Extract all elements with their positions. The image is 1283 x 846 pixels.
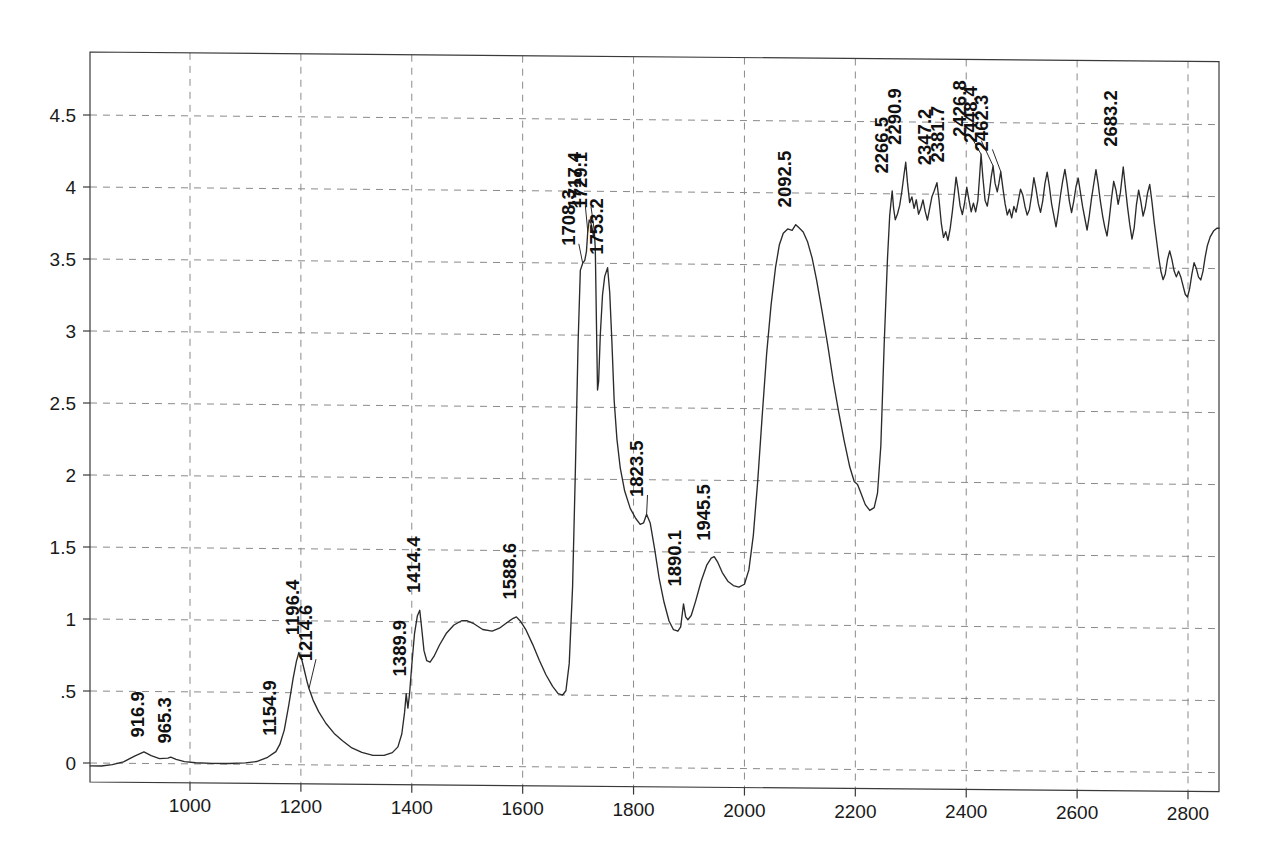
y-gridline xyxy=(90,403,1219,413)
y-gridline xyxy=(90,115,1219,125)
y-axis-tick-label: 3.5 xyxy=(50,249,76,270)
y-axis-tick-label: 2.5 xyxy=(50,393,76,414)
peak-label: 2381.7 xyxy=(927,106,948,163)
y-gridline xyxy=(90,475,1219,485)
peak-label: 1389.9 xyxy=(389,620,410,677)
peak-label: 916.9 xyxy=(127,691,148,737)
peak-label: 1414.4 xyxy=(403,536,424,593)
peak-leader-line xyxy=(579,244,583,263)
peak-label: 1214.6 xyxy=(295,605,316,662)
peak-label: 1890.1 xyxy=(664,530,685,587)
y-axis-tick-label: 3 xyxy=(65,321,76,342)
y-axis-tick-label: .5 xyxy=(60,681,76,702)
peak-label: 2462.3 xyxy=(971,95,992,152)
y-axis-tick-label: 0 xyxy=(65,753,76,774)
peak-label: 1945.5 xyxy=(693,484,714,541)
peak-label: 2290.9 xyxy=(884,88,905,145)
y-axis-tick-label: 4 xyxy=(65,177,76,198)
y-gridline xyxy=(90,331,1219,341)
x-axis-tick-label: 2000 xyxy=(723,800,765,821)
y-gridline xyxy=(90,259,1219,269)
x-axis-tick-label: 2400 xyxy=(945,801,987,822)
peak-label: 1588.6 xyxy=(499,543,520,600)
peak-leader-line xyxy=(309,659,316,688)
spectrum-trace xyxy=(90,154,1219,766)
x-axis-tick-label: 1200 xyxy=(280,796,322,817)
x-axis-tick-label: 2600 xyxy=(1056,802,1098,823)
ir-spectrum-chart: 0.511.522.533.544.5100012001400160018002… xyxy=(0,0,1283,846)
spectrum-page: 0.511.522.533.544.5100012001400160018002… xyxy=(0,0,1283,846)
chart-canvas: 0.511.522.533.544.5100012001400160018002… xyxy=(0,0,1283,846)
y-gridline xyxy=(90,763,1219,773)
x-axis-tick-label: 1000 xyxy=(169,795,211,816)
x-axis-tick-label: 1400 xyxy=(391,797,433,818)
x-axis-tick-label: 1800 xyxy=(612,799,654,820)
y-axis-tick-label: 4.5 xyxy=(50,105,76,126)
peak-label: 1753.2 xyxy=(586,198,607,255)
y-axis-tick-label: 2 xyxy=(65,465,76,486)
x-axis-tick-label: 2200 xyxy=(834,801,876,822)
x-axis-tick-label: 1600 xyxy=(502,798,544,819)
y-gridline xyxy=(90,619,1219,629)
peak-label: 1823.5 xyxy=(626,440,647,497)
peak-label: 1154.9 xyxy=(259,680,280,736)
y-axis-tick-label: 1.5 xyxy=(50,537,76,558)
peak-annotations-layer: 916.9965.31154.91196.41214.61389.91414.4… xyxy=(127,80,1121,743)
peak-label: 2092.5 xyxy=(774,151,795,208)
spectrum-trace-layer xyxy=(90,154,1219,766)
y-axis-tick-label: 1 xyxy=(65,609,76,630)
peak-label: 2683.2 xyxy=(1100,90,1121,147)
peak-label: 965.3 xyxy=(154,697,175,743)
x-axis-tick-label: 2800 xyxy=(1167,803,1209,824)
axes-layer xyxy=(83,52,1219,799)
